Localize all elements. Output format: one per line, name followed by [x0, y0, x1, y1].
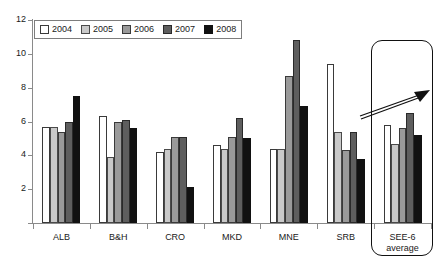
bar-cro-2006	[171, 137, 179, 223]
y-axis-tick-label: 12	[4, 15, 26, 24]
bar-mne-2006	[285, 76, 293, 223]
bar-see-6-average-2007	[406, 113, 414, 223]
x-axis-tick	[317, 224, 318, 229]
legend-label-2005: 2005	[93, 25, 113, 34]
bar-b-h-2008	[130, 128, 138, 223]
legend-item-2006[interactable]: 2006	[122, 25, 154, 34]
legend-label-2007: 2007	[175, 25, 195, 34]
bar-see-6-average-2008	[414, 135, 422, 223]
bar-srb-2004	[327, 64, 335, 223]
y-axis-tick-label: 4	[4, 150, 26, 159]
bar-chart: 24681012 ALBB&HCROMKDMNESRBSEE-6average …	[0, 0, 437, 267]
bar-alb-2006	[58, 132, 66, 223]
x-axis-label-line1: CRO	[147, 232, 204, 243]
bar-b-h-2005	[107, 157, 115, 223]
bar-b-h-2004	[99, 116, 107, 223]
x-axis-tick	[374, 224, 375, 229]
bar-srb-2008	[357, 159, 365, 223]
bar-b-h-2006	[114, 122, 122, 224]
bar-srb-2006	[342, 150, 350, 223]
bar-mne-2008	[300, 106, 308, 223]
bar-cro-2004	[156, 152, 164, 223]
top-caption	[0, 0, 437, 10]
bar-mkd-2008	[243, 138, 251, 223]
bar-cro-2005	[164, 149, 172, 223]
bar-alb-2008	[73, 96, 81, 223]
x-axis-label-b-h: B&H	[90, 232, 147, 243]
bar-mkd-2006	[228, 137, 236, 223]
plot-area	[33, 20, 431, 223]
x-axis-label-line1: SRB	[317, 232, 374, 243]
legend-item-2008[interactable]: 2008	[204, 25, 236, 34]
bar-mne-2007	[293, 40, 301, 223]
y-axis-tick-label: 2	[4, 184, 26, 193]
bar-cro-2007	[179, 137, 187, 223]
x-axis-label-line2: average	[374, 243, 431, 254]
y-axis-tick-label: 8	[4, 83, 26, 92]
bar-srb-2007	[350, 132, 358, 223]
bar-see-6-average-2004	[384, 125, 392, 223]
x-axis-label-line1: ALB	[33, 232, 90, 243]
bar-mne-2004	[270, 149, 278, 223]
bar-alb-2007	[65, 122, 73, 224]
y-axis-tick-label: 10	[4, 49, 26, 58]
bar-alb-2004	[42, 127, 50, 223]
x-axis-label-see-6: SEE-6average	[374, 232, 431, 254]
x-axis-tick	[33, 224, 34, 229]
legend-swatch-icon-2008	[204, 25, 213, 34]
legend-swatch-icon-2004	[40, 25, 49, 34]
x-axis-label-cro: CRO	[147, 232, 204, 243]
bar-b-h-2007	[122, 120, 130, 223]
legend-label-2008: 2008	[216, 25, 236, 34]
bar-alb-2005	[50, 127, 58, 223]
legend-swatch-icon-2005	[81, 25, 90, 34]
x-axis-tick	[260, 224, 261, 229]
legend: 20042005200620072008	[34, 20, 242, 39]
x-axis-tick	[431, 224, 432, 229]
x-axis-label-line1: MKD	[204, 232, 261, 243]
legend-label-2004: 2004	[52, 25, 72, 34]
x-axis-label-line1: SEE-6	[374, 232, 431, 243]
legend-item-2007[interactable]: 2007	[163, 25, 195, 34]
legend-item-2005[interactable]: 2005	[81, 25, 113, 34]
legend-item-2004[interactable]: 2004	[40, 25, 72, 34]
bar-see-6-average-2005	[391, 144, 399, 224]
legend-swatch-icon-2007	[163, 25, 172, 34]
x-axis-label-alb: ALB	[33, 232, 90, 243]
bar-mkd-2004	[213, 145, 221, 223]
bar-mkd-2005	[221, 149, 229, 223]
bar-srb-2005	[334, 132, 342, 223]
upward-trend-arrow-icon	[358, 85, 436, 121]
x-axis-label-mkd: MKD	[204, 232, 261, 243]
x-axis-tick	[90, 224, 91, 229]
x-axis-tick	[204, 224, 205, 229]
y-axis-tick-label: 6	[4, 117, 26, 126]
x-axis-label-mne: MNE	[260, 232, 317, 243]
x-axis-line	[32, 223, 432, 224]
x-axis-label-line1: MNE	[260, 232, 317, 243]
legend-swatch-icon-2006	[122, 25, 131, 34]
bar-cro-2008	[187, 187, 195, 223]
x-axis-label-line1: B&H	[90, 232, 147, 243]
x-axis-label-srb: SRB	[317, 232, 374, 243]
legend-label-2006: 2006	[134, 25, 154, 34]
bar-mne-2005	[277, 149, 285, 223]
bar-mkd-2007	[236, 118, 244, 223]
x-axis-tick	[147, 224, 148, 229]
bar-see-6-average-2006	[399, 128, 407, 223]
